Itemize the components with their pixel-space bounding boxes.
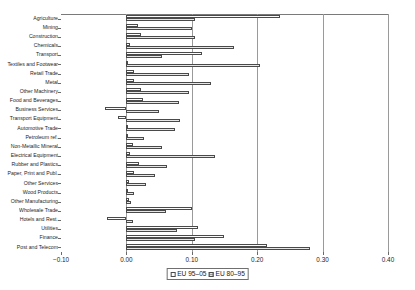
y-tick-label-1: Mining: [43, 25, 58, 31]
x-tick-label-3: 0.20: [251, 256, 263, 264]
plot-area: [61, 14, 388, 252]
y-tick-3: [58, 46, 61, 47]
x-tick-label-2: 0.10: [186, 256, 198, 264]
y-tick-label-8: Other Machinery: [20, 89, 58, 95]
legend-item-0: EU 95–05: [170, 270, 206, 278]
gridline-1: [126, 14, 127, 252]
x-tick-label-0: −0.10: [53, 256, 69, 264]
gridline-4: [323, 14, 324, 252]
bar-eu-80-95-10: [126, 110, 159, 113]
y-tick-24: [58, 238, 61, 239]
gridline-3: [257, 14, 258, 252]
bar-eu-80-95-14: [126, 146, 162, 149]
y-tick-label-24: Finance: [40, 235, 58, 241]
bar-eu-80-95-19: [126, 192, 134, 195]
bar-eu-80-95-11: [126, 119, 180, 122]
y-tick-label-17: Paper, Print and Publ.: [8, 171, 58, 177]
bar-eu-80-95-21: [126, 210, 165, 213]
y-tick-12: [58, 128, 61, 129]
y-tick-label-0: Agriculture: [33, 15, 58, 21]
y-tick-14: [58, 147, 61, 148]
bar-eu-95-05-22: [107, 217, 127, 220]
y-tick-label-22: Hotels and Rest.: [20, 217, 58, 223]
y-tick-label-21: Wholesale Trade: [19, 208, 58, 214]
y-tick-23: [58, 229, 61, 230]
y-tick-20: [58, 202, 61, 203]
y-tick-label-11: Transport Equipment: [10, 116, 58, 122]
y-tick-label-12: Automotive Trade: [17, 125, 58, 131]
bar-eu-80-95-8: [126, 91, 188, 94]
bar-eu-80-95-18: [126, 183, 146, 186]
bar-eu-80-95-9: [126, 101, 178, 104]
bar-eu-80-95-2: [126, 36, 195, 39]
y-tick-8: [58, 92, 61, 93]
y-tick-25: [58, 247, 61, 248]
y-tick-18: [58, 183, 61, 184]
y-tick-label-5: Textiles and Footwear: [8, 61, 58, 67]
y-tick-label-13: Petroleum ref.: [25, 134, 58, 140]
x-axis-tick-labels: −0.100.000.100.200.300.40: [0, 256, 415, 268]
y-tick-17: [58, 174, 61, 175]
y-tick-6: [58, 74, 61, 75]
y-tick-label-20: Other Manufacturing: [11, 199, 58, 205]
gridline-5: [388, 14, 389, 252]
y-tick-label-14: Non-Metallic Mineral: [11, 144, 58, 150]
y-tick-label-15: Electrical Equipment: [11, 153, 58, 159]
y-tick-13: [58, 138, 61, 139]
y-tick-label-6: Retail Trade: [30, 70, 58, 76]
y-tick-label-23: Utilities: [41, 226, 58, 232]
bar-eu-80-95-17: [126, 174, 154, 177]
bar-eu-80-95-12: [126, 128, 175, 131]
y-tick-1: [58, 28, 61, 29]
gridline-2: [192, 14, 193, 252]
bar-eu-80-95-3: [126, 46, 234, 49]
legend-swatch-icon-1: [209, 272, 214, 277]
y-axis-category-labels: AgricultureMiningConstructionChemicalsTr…: [0, 14, 58, 252]
y-tick-label-10: Business Services: [16, 107, 58, 113]
x-tick-label-5: 0.40: [382, 256, 394, 264]
chart-legend: EU 95–05 EU 80–95: [166, 268, 249, 280]
y-tick-10: [58, 110, 61, 111]
y-tick-4: [58, 55, 61, 56]
legend-item-1: EU 80–95: [209, 270, 245, 278]
y-tick-11: [58, 119, 61, 120]
y-tick-19: [58, 193, 61, 194]
bar-eu-80-95-13: [126, 137, 144, 140]
bar-eu-80-95-4: [126, 55, 162, 58]
chart-figure: AgricultureMiningConstructionChemicalsTr…: [0, 0, 415, 290]
x-tick-3: [257, 252, 258, 255]
y-tick-label-2: Construction: [29, 34, 58, 40]
bar-eu-80-95-16: [126, 165, 167, 168]
legend-swatch-icon-0: [170, 272, 175, 277]
bar-eu-80-95-25: [126, 247, 309, 250]
y-tick-label-4: Transport: [36, 52, 58, 58]
x-tick-5: [388, 252, 389, 255]
bar-eu-95-05-11: [118, 116, 127, 119]
y-tick-7: [58, 83, 61, 84]
y-tick-label-9: Food and Beverages: [10, 98, 58, 104]
bar-eu-80-95-7: [126, 82, 211, 85]
y-tick-label-7: Metal: [45, 80, 58, 86]
y-tick-label-18: Other Services: [24, 180, 58, 186]
y-tick-21: [58, 211, 61, 212]
x-tick-2: [192, 252, 193, 255]
y-tick-15: [58, 156, 61, 157]
legend-label-0: EU 95–05: [177, 270, 206, 278]
y-tick-5: [58, 64, 61, 65]
bar-eu-80-95-15: [126, 155, 214, 158]
y-tick-label-16: Rubber and Plastics: [12, 162, 58, 168]
y-tick-0: [58, 19, 61, 20]
y-tick-16: [58, 165, 61, 166]
bar-eu-80-95-1: [126, 27, 191, 30]
y-tick-22: [58, 220, 61, 221]
bar-eu-80-95-5: [126, 64, 260, 67]
y-tick-label-25: Post and Telecom: [17, 244, 58, 250]
bar-eu-80-95-20: [126, 201, 131, 204]
x-tick-1: [126, 252, 127, 255]
bar-eu-95-05-10: [105, 107, 126, 110]
y-tick-9: [58, 101, 61, 102]
x-tick-label-4: 0.30: [316, 256, 328, 264]
x-tick-0: [61, 252, 62, 255]
y-tick-label-19: Wood Products: [23, 189, 58, 195]
legend-label-1: EU 80–95: [216, 270, 245, 278]
